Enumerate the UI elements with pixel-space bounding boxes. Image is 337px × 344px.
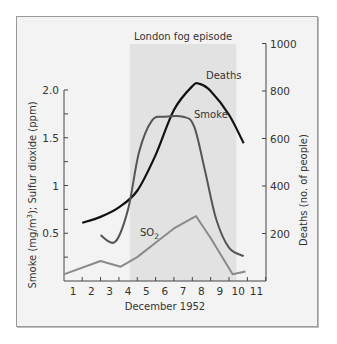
deaths-label: Deaths: [206, 70, 241, 81]
y-left-tick-label: 2.0: [42, 84, 59, 96]
fog-episode-label: London fog episode: [134, 31, 232, 42]
smoke-label: Smoke: [194, 109, 228, 120]
line-chart: London fog episode 0.511.52.020040060080…: [0, 0, 337, 344]
x-tick-label: 5: [143, 285, 150, 297]
x-tick-label: 10: [231, 285, 244, 297]
x-tick-label: 6: [161, 285, 168, 297]
y-axis-left-title: Smoke (mg/m3); Sulfur dioxide (ppm): [26, 101, 38, 288]
x-tick-label: 8: [198, 285, 205, 297]
y-left-tick-label: 1.5: [42, 132, 59, 144]
y-right-tick-label: 1000: [270, 38, 297, 50]
x-tick-label: 4: [125, 285, 132, 297]
y-right-tick-label: 800: [270, 85, 290, 97]
y-right-tick-label: 200: [270, 228, 290, 240]
x-tick-label: 11: [250, 285, 263, 297]
x-tick-label: 3: [106, 285, 113, 297]
y-right-tick-label: 600: [270, 133, 290, 145]
x-axis-title: December 1952: [125, 301, 205, 312]
x-tick-label: 7: [180, 285, 187, 297]
x-tick-label: 2: [88, 285, 95, 297]
x-tick-label: 9: [216, 285, 223, 297]
x-tick-label: 1: [70, 285, 77, 297]
y-axis-right-title: Deaths (no. of people): [298, 134, 309, 246]
y-left-tick-label: 0.5: [42, 227, 59, 239]
y-right-tick-label: 400: [270, 180, 290, 192]
y-left-tick-label: 1: [52, 180, 59, 192]
